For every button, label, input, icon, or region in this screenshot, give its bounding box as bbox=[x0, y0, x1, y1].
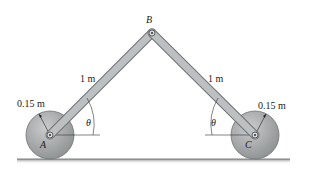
ground bbox=[17, 159, 290, 164]
pin-c bbox=[252, 132, 258, 138]
mechanism-diagram: B A C 1 m 1 m 0.15 m 0.15 m θ θ bbox=[0, 0, 310, 177]
pin-a bbox=[47, 132, 53, 138]
label-radius-c: 0.15 m bbox=[258, 100, 286, 111]
link-bc bbox=[152, 33, 255, 135]
label-length-ab: 1 m bbox=[80, 73, 96, 84]
label-point-c: C bbox=[245, 139, 252, 150]
pin-b bbox=[149, 30, 155, 36]
label-angle-c: θ bbox=[211, 117, 216, 128]
label-length-bc: 1 m bbox=[208, 73, 224, 84]
label-radius-a: 0.15 m bbox=[17, 98, 45, 109]
label-point-a: A bbox=[39, 139, 47, 150]
label-point-b: B bbox=[146, 14, 152, 25]
link-ab bbox=[50, 33, 152, 135]
label-angle-a: θ bbox=[86, 117, 91, 128]
diagram-svg: B A C 1 m 1 m 0.15 m 0.15 m θ θ bbox=[0, 0, 310, 177]
